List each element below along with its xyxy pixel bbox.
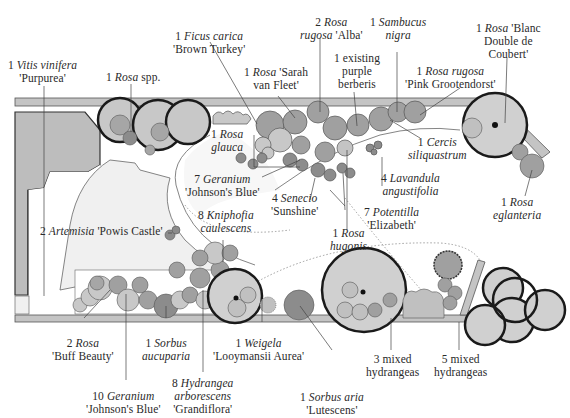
label-rosa-hugonis: 1 Rosa hugonis [330, 227, 367, 253]
rosa-hugonis-circle [322, 248, 406, 332]
label-senecio-sunshine: 4 Senecio 'Sunshine' [271, 192, 318, 218]
label-rosa-glauca: 1 Rosa glauca [211, 128, 243, 154]
rosa-spp-circles [98, 98, 210, 155]
label-sorbus-aucuparia: 1 Sorbus aucuparia [142, 337, 190, 363]
label-cercis-siliquastrum: 1 Cercis siliquastrum [408, 136, 467, 162]
label-5-mixed-hydrangeas: 5 mixed hydrangeas [434, 353, 487, 379]
label-hydrangea-arborescens: 8 Hydrangea arborescens 'Grandiflora' [172, 377, 233, 416]
label-3-mixed-hydrangeas: 3 mixed hydrangeas [366, 353, 419, 379]
sorbus-aria-circle [284, 290, 314, 320]
label-sambucus-nigra: 1 Sambucus nigra [370, 16, 426, 42]
label-lavandula: 4 Lavandula angustifolia [381, 172, 440, 198]
label-geranium-7: 7 Geranium 'Johnson's Blue' [185, 173, 260, 199]
label-rosa-buff-beauty: 2 Rosa 'Buff Beauty' [52, 337, 114, 363]
label-artemisia: 2 Artemisia 'Powis Castle' [40, 225, 163, 238]
label-kniphofia: 8 Kniphofia caulescens [198, 209, 254, 235]
label-weigela: 1 Weigela 'Looymansii Aurea' [213, 337, 304, 363]
label-rosa-pink-grootendorst: 1 Rosa rugosa 'Pink Grootendorst' [405, 65, 496, 91]
label-existing-berberis: 1 existing purple berberis [334, 52, 380, 91]
hydrangeas-5 [465, 268, 565, 345]
label-potentilla-elizabeth: 7 Potentilla 'Elizabeth' [364, 206, 419, 232]
hydrangeas-3 [403, 251, 462, 318]
label-rosa-eglanteria: 1 Rosa eglanteria [493, 196, 541, 222]
label-rosa-sarah-van-fleet: 1 Rosa 'Sarah van Fleet' [244, 66, 308, 92]
label-ficus-carica: 1 Ficus carica 'Brown Turkey' [173, 30, 245, 56]
label-rosa-blanc-double: 1 Rosa 'Blanc Double de Coubert' [476, 22, 541, 61]
label-vitis-vinifera: 1 Vitis vinifera 'Purpurea' [8, 59, 77, 85]
label-rosa-rugosa-alba: 2 Rosa rugosa 'Alba' [300, 16, 363, 42]
label-rosa-spp: 1 Rosa spp. [106, 71, 160, 84]
label-geranium-10: 10 Geranium 'Johnson's Blue' [86, 390, 161, 416]
label-sorbus-aria: 1 Sorbus aria 'Lutescens' [300, 391, 364, 417]
